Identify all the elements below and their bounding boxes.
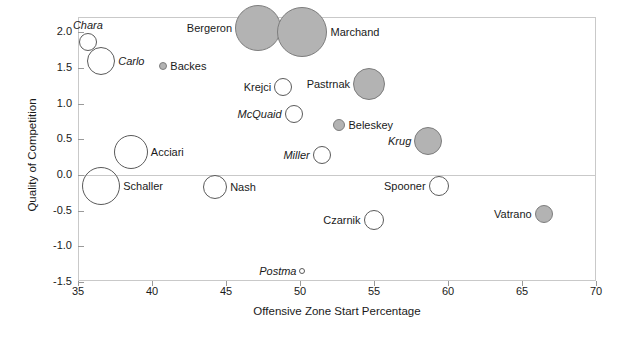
data-label-miller: Miller xyxy=(283,149,309,161)
data-label-marchand: Marchand xyxy=(330,26,379,38)
y-tick-mark xyxy=(78,68,84,69)
x-tick-label: 40 xyxy=(146,285,158,297)
x-tick-label: 50 xyxy=(294,285,306,297)
data-point-krug[interactable] xyxy=(414,127,442,155)
y-axis-title: Quality of Competition xyxy=(26,60,38,250)
bubble-chart: Quality of Competition 2.01.51.00.50.0-0… xyxy=(0,0,617,341)
data-point-beleskey[interactable] xyxy=(333,119,345,131)
data-point-czarnik[interactable] xyxy=(364,210,384,230)
x-tick-mark xyxy=(522,281,523,286)
data-label-czarnik: Czarnik xyxy=(323,214,360,226)
x-tick-mark xyxy=(152,281,153,286)
zero-reference-line xyxy=(79,175,595,176)
data-point-acciari[interactable] xyxy=(114,135,148,169)
y-axis-tick-labels: 2.01.51.00.50.0-0.5-1.0-1.5 xyxy=(44,0,72,341)
data-label-bergeron: Bergeron xyxy=(187,22,232,34)
data-label-schaller: Schaller xyxy=(123,180,163,192)
y-tick-label: 2.0 xyxy=(44,25,72,37)
x-tick-label: 55 xyxy=(368,285,380,297)
data-label-carlo: Carlo xyxy=(118,55,144,67)
x-axis-title: Offensive Zone Start Percentage xyxy=(78,305,596,317)
data-label-krug: Krug xyxy=(388,135,411,147)
data-label-mcquaid: McQuaid xyxy=(238,108,282,120)
y-tick-label: 1.5 xyxy=(44,61,72,73)
x-tick-label: 65 xyxy=(516,285,528,297)
x-tick-label: 70 xyxy=(590,285,602,297)
x-tick-mark xyxy=(374,281,375,286)
data-label-spooner: Spooner xyxy=(384,180,426,192)
x-tick-mark xyxy=(78,281,79,286)
x-tick-mark xyxy=(300,281,301,286)
chart-title xyxy=(0,0,617,2)
data-point-vatrano[interactable] xyxy=(535,205,553,223)
data-label-backes: Backes xyxy=(170,60,206,72)
data-point-marchand[interactable] xyxy=(277,7,327,57)
data-label-chara: Chara xyxy=(73,19,103,31)
x-tick-label: 35 xyxy=(72,285,84,297)
y-tick-mark xyxy=(78,175,84,176)
x-tick-label: 60 xyxy=(442,285,454,297)
data-point-pastrnak[interactable] xyxy=(353,68,385,100)
x-tick-mark xyxy=(596,281,597,286)
data-point-bergeron[interactable] xyxy=(235,5,281,51)
y-tick-mark xyxy=(78,211,84,212)
data-point-spooner[interactable] xyxy=(429,176,449,196)
data-label-krejci: Krejci xyxy=(244,81,272,93)
x-tick-mark xyxy=(226,281,227,286)
data-label-acciari: Acciari xyxy=(151,146,184,158)
y-tick-label: -0.5 xyxy=(44,204,72,216)
y-tick-label: 1.0 xyxy=(44,97,72,109)
x-tick-label: 45 xyxy=(220,285,232,297)
data-label-vatrano: Vatrano xyxy=(494,208,532,220)
data-label-beleskey: Beleskey xyxy=(348,119,393,131)
data-point-carlo[interactable] xyxy=(87,47,115,75)
data-point-postma[interactable] xyxy=(299,268,305,274)
data-label-nash: Nash xyxy=(230,181,256,193)
y-tick-mark xyxy=(78,104,84,105)
data-point-backes[interactable] xyxy=(159,62,167,70)
y-tick-label: 0.0 xyxy=(44,168,72,180)
data-label-pastrnak: Pastrnak xyxy=(307,78,350,90)
plot-area: CharaCarloBackesBergeronMarchandKrejciPa… xyxy=(78,17,596,281)
y-tick-label: 0.5 xyxy=(44,132,72,144)
data-point-nash[interactable] xyxy=(203,175,227,199)
data-point-schaller[interactable] xyxy=(82,167,120,205)
data-point-krejci[interactable] xyxy=(274,78,292,96)
y-tick-label: -1.5 xyxy=(44,275,72,287)
y-tick-label: -1.0 xyxy=(44,239,72,251)
data-point-miller[interactable] xyxy=(313,146,331,164)
data-point-mcquaid[interactable] xyxy=(285,105,303,123)
y-tick-mark xyxy=(78,246,84,247)
data-label-postma: Postma xyxy=(259,265,296,277)
x-tick-mark xyxy=(448,281,449,286)
y-tick-mark xyxy=(78,139,84,140)
